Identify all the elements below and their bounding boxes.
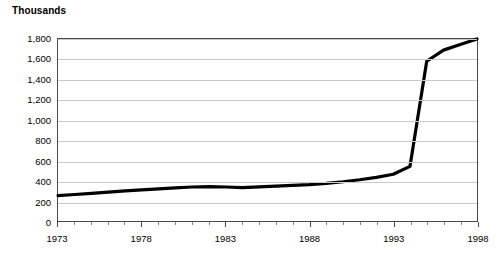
x-axis-major-tick [394, 222, 395, 227]
x-axis-tick-label: 1973 [46, 233, 67, 244]
y-axis-tick-label: 400 [35, 176, 51, 187]
x-axis-minor-tick [276, 222, 277, 225]
y-axis-tick-label: 600 [35, 155, 51, 166]
x-axis-minor-tick [209, 222, 210, 225]
gridline [58, 121, 477, 122]
x-axis-major-tick [141, 222, 142, 227]
series-line [58, 39, 477, 221]
x-axis-minor-tick [411, 222, 412, 225]
y-axis-tick-label: 200 [35, 196, 51, 207]
gridline [58, 39, 477, 40]
x-axis-tick-label: 1983 [215, 233, 236, 244]
x-axis-minor-tick [175, 222, 176, 225]
y-axis-tick-label: 1,600 [27, 53, 51, 64]
y-axis-tick-label: 1,000 [27, 114, 51, 125]
x-axis-minor-tick [91, 222, 92, 225]
plot-area [57, 38, 478, 222]
x-axis-tick-label: 1988 [299, 233, 320, 244]
x-axis-major-tick [57, 222, 58, 227]
x-axis-minor-tick [461, 222, 462, 225]
x-axis-tick-label: 1998 [467, 233, 488, 244]
y-axis-tick-label: 1,800 [27, 33, 51, 44]
gridline [58, 141, 477, 142]
gridline [58, 162, 477, 163]
y-axis-tick-label: 1,400 [27, 73, 51, 84]
gridline [58, 203, 477, 204]
x-axis-minor-tick [444, 222, 445, 225]
y-axis-tick-label: 800 [35, 135, 51, 146]
x-axis-minor-tick [108, 222, 109, 225]
x-axis-minor-tick [343, 222, 344, 225]
x-axis-minor-tick [377, 222, 378, 225]
x-axis-minor-tick [427, 222, 428, 225]
x-axis-minor-tick [326, 222, 327, 225]
gridline [58, 59, 477, 60]
gridline [58, 100, 477, 101]
x-axis-minor-tick [124, 222, 125, 225]
x-axis-minor-tick [158, 222, 159, 225]
x-axis-major-tick [310, 222, 311, 227]
x-axis-tick-label: 1993 [383, 233, 404, 244]
y-axis-tick-labels: 02004006008001,0001,2001,4001,6001,800 [0, 0, 51, 257]
x-axis-minor-tick [242, 222, 243, 225]
x-axis-major-tick [478, 222, 479, 227]
x-axis-minor-tick [192, 222, 193, 225]
y-axis-tick-label: 0 [46, 217, 51, 228]
x-axis-tick-labels: 197319781983198819931998 [57, 233, 478, 249]
x-axis-minor-tick [293, 222, 294, 225]
gridline [58, 182, 477, 183]
line-chart: Thousands 02004006008001,0001,2001,4001,… [0, 0, 502, 257]
x-axis-minor-tick [74, 222, 75, 225]
x-axis-major-tick [225, 222, 226, 227]
x-axis-tick-label: 1978 [131, 233, 152, 244]
gridline [58, 80, 477, 81]
x-axis-minor-tick [259, 222, 260, 225]
y-axis-tick-label: 1,200 [27, 94, 51, 105]
x-axis-minor-tick [360, 222, 361, 225]
x-axis-ticks [57, 222, 478, 228]
